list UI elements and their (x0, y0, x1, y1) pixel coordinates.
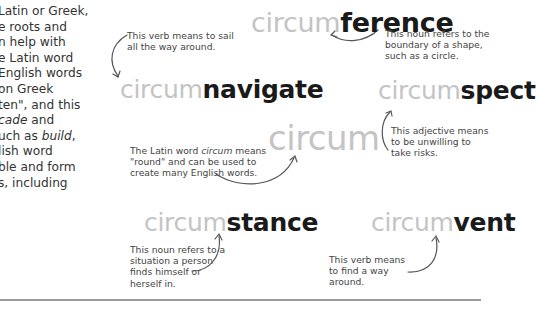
arrow-circumnavigate (112, 35, 127, 76)
word-prefix: circum (371, 208, 454, 237)
word-root: vent (454, 208, 516, 237)
note-circumstance: This noun refers to a situation a person… (130, 244, 230, 289)
word-root: navigate (203, 75, 324, 104)
word-circumvent: circumvent (371, 208, 515, 237)
note-circumspect: This adjective means to be unwilling to … (391, 125, 491, 159)
word-prefix: circum (144, 208, 227, 237)
word-circumnavigate: circumnavigate (120, 75, 323, 104)
word-root: spect (461, 76, 536, 105)
center-root-word: circum (268, 118, 380, 158)
word-circumstance: circumstance (144, 208, 318, 237)
horizontal-divider (0, 299, 481, 301)
word-prefix: circum (120, 75, 203, 104)
word-prefix: circum (378, 76, 461, 105)
word-root: stance (227, 208, 318, 237)
note-center: The Latin word circum means "round" and … (130, 145, 270, 179)
note-circumference: This noun refers to the boundary of a sh… (385, 28, 493, 62)
word-prefix: circum (251, 7, 340, 38)
arrow-circumspect (382, 112, 390, 150)
note-circumnavigate: This verb means to sail all the way arou… (127, 30, 247, 52)
word-circumspect: circumspect (378, 76, 536, 105)
note-circumvent: This verb means to find a way around. (329, 254, 417, 288)
